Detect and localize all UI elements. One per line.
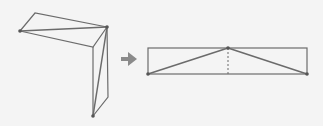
- triangle-right-side: [228, 48, 307, 74]
- vertex-dot: [146, 72, 150, 76]
- vertex-dot: [18, 29, 22, 33]
- flat-shape: [148, 48, 307, 74]
- vertex-dot: [226, 46, 230, 50]
- diagram-canvas: [0, 0, 323, 126]
- triangle-left-side: [148, 48, 228, 74]
- vertex-dot: [305, 72, 309, 76]
- right-arrow-icon: [121, 52, 137, 66]
- folded-shape: [20, 13, 108, 116]
- fold-diagonal-side: [93, 27, 107, 116]
- fold-diagonal-top: [20, 27, 107, 31]
- vertex-dot: [105, 25, 109, 29]
- vertex-dot: [91, 114, 95, 118]
